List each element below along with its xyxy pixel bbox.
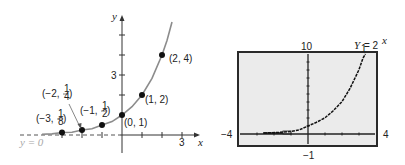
leader-arrow-icon bbox=[78, 123, 82, 129]
point-label-neg3-eighth: (−3, 1 8 ) bbox=[36, 108, 66, 127]
left-graph: y x 3 3 y = 0 (2, 4) (1, 2) (0, 1) (−1, … bbox=[19, 10, 203, 153]
point-label-1-2: (1, 2) bbox=[145, 94, 168, 105]
y-axis-label: y bbox=[111, 10, 117, 22]
svg-text:= 2: = 2 bbox=[364, 40, 379, 51]
asymptote-label: y = 0 bbox=[19, 136, 44, 148]
point-label-neg2-quarter: (−2, 1 4 ) bbox=[42, 83, 72, 102]
x-tick-label-3: 3 bbox=[179, 137, 185, 148]
figure: y x 3 3 y = 0 (2, 4) (1, 2) (0, 1) (−1, … bbox=[0, 0, 405, 165]
svg-text:(−3,: (−3, bbox=[36, 113, 54, 124]
calc-ymax-label: 10 bbox=[301, 41, 313, 52]
calc-xmax-label: 4 bbox=[383, 129, 389, 140]
point-label-0-1: (0, 1) bbox=[124, 117, 147, 128]
svg-text:): ) bbox=[107, 105, 110, 116]
point-label-neg1-half: (−1, 1 2 ) bbox=[80, 100, 110, 119]
calc-xmin-label: −4 bbox=[221, 129, 233, 140]
svg-text:x: x bbox=[381, 34, 387, 46]
calculator-graph: 10 −1 −4 4 Y 1 = 2 x bbox=[221, 34, 389, 161]
point-label-2-4: (2, 4) bbox=[169, 53, 192, 64]
y-tick-label-3: 3 bbox=[111, 70, 117, 81]
leader-line bbox=[69, 104, 80, 127]
calc-ymin-label: −1 bbox=[303, 150, 315, 161]
y-axis-arrow-icon bbox=[120, 15, 125, 21]
svg-text:(−2,: (−2, bbox=[42, 88, 60, 99]
svg-text:): ) bbox=[69, 88, 72, 99]
svg-text:): ) bbox=[63, 113, 66, 124]
svg-text:(−1,: (−1, bbox=[80, 105, 98, 116]
x-axis-label: x bbox=[197, 136, 203, 148]
